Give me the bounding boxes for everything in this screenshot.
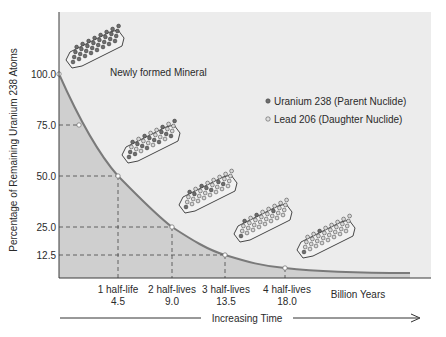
uranium-atom xyxy=(111,27,115,31)
uranium-atom xyxy=(188,190,192,194)
x-tick-4-value: 18.0 xyxy=(277,296,297,307)
lead-atom xyxy=(266,212,270,216)
lead-atom xyxy=(260,215,264,219)
lead-atom xyxy=(227,179,231,183)
lead-atom xyxy=(309,242,313,246)
uranium-atom xyxy=(110,32,114,36)
time-arrow-label: Increasing Time xyxy=(212,313,283,324)
x-tick-3-top: 3 half-lives xyxy=(202,284,250,295)
uranium-atom xyxy=(86,44,90,48)
lead-atom xyxy=(151,143,155,147)
uranium-atom xyxy=(161,125,165,129)
lead-atom xyxy=(278,206,282,210)
uranium-atom xyxy=(148,136,152,140)
lead-atom xyxy=(341,222,345,226)
lead-atom xyxy=(330,223,334,227)
lead-atom xyxy=(306,235,310,239)
x-tick-2-value: 9.0 xyxy=(165,296,179,307)
lead-atom xyxy=(223,177,227,181)
lead-atom xyxy=(332,235,336,239)
y-tick-12-5: 12.5 xyxy=(37,250,57,261)
lead-atom xyxy=(254,218,258,222)
uranium-atom xyxy=(99,33,103,37)
uranium-atom xyxy=(93,36,97,40)
uranium-atom xyxy=(217,180,221,184)
uranium-atom xyxy=(101,45,105,49)
uranium-atom xyxy=(136,142,140,146)
lead-atom xyxy=(190,202,194,206)
uranium-atom xyxy=(140,144,144,148)
lead-atom xyxy=(303,245,307,249)
uranium-atom xyxy=(107,42,111,46)
y-axis-label: Percentage of Remaining Uranium 238 Atom… xyxy=(8,48,19,251)
uranium-atom xyxy=(102,40,106,44)
uranium-atom xyxy=(255,213,259,217)
lead-atom xyxy=(166,127,170,131)
uranium-atom xyxy=(105,30,109,34)
uranium-atom xyxy=(272,209,276,213)
lead-atom xyxy=(230,169,234,173)
uranium-atom xyxy=(239,234,243,238)
lead-atom xyxy=(218,175,222,179)
lead-atom xyxy=(206,181,210,185)
lead-atom xyxy=(275,216,279,220)
uranium-atom xyxy=(75,45,79,49)
uranium-atom xyxy=(78,52,82,56)
x-tick-1-top: 1 half-life xyxy=(98,284,139,295)
lead-atom xyxy=(267,207,271,211)
lead-atom xyxy=(202,196,206,200)
uranium-atom xyxy=(193,192,197,196)
lead-atom xyxy=(167,122,171,126)
lead-atom xyxy=(197,194,201,198)
uranium-atom xyxy=(95,48,99,52)
lead-atom xyxy=(315,239,319,243)
uranium-atom xyxy=(160,130,164,134)
uranium-atom xyxy=(87,39,91,43)
lead-atom xyxy=(215,185,219,189)
uranium-dot-icon xyxy=(266,99,270,103)
uranium-atom xyxy=(83,54,87,58)
uranium-atom xyxy=(104,35,108,39)
lead-dot-icon xyxy=(266,117,270,121)
uranium-atom xyxy=(81,42,85,46)
lead-atom xyxy=(282,208,286,212)
x-unit-label: Billion Years xyxy=(331,289,385,300)
uranium-atom xyxy=(200,184,204,188)
lead-atom xyxy=(154,133,158,137)
lead-atom xyxy=(327,233,331,237)
lead-atom xyxy=(139,149,143,153)
uranium-atom xyxy=(113,39,117,43)
lead-atom xyxy=(199,189,203,193)
legend-lead: Lead 206 (Daughter Nuclide) xyxy=(274,114,402,125)
lead-atom xyxy=(229,174,233,178)
lead-atom xyxy=(146,141,150,145)
lead-atom xyxy=(246,226,250,230)
lead-atom xyxy=(172,124,176,128)
lead-atom xyxy=(263,222,267,226)
lead-atom xyxy=(258,220,262,224)
lead-atom xyxy=(270,214,274,218)
uranium-atom xyxy=(143,134,147,138)
lead-atom xyxy=(329,228,333,232)
uranium-atom xyxy=(145,146,149,150)
lead-atom xyxy=(194,187,198,191)
lead-atom xyxy=(208,193,212,197)
x-tick-1-value: 4.5 xyxy=(111,296,125,307)
legend-uranium: Uranium 238 (Parent Nuclide) xyxy=(274,96,406,107)
uranium-atom xyxy=(184,205,188,209)
uranium-atom xyxy=(173,119,177,123)
lead-atom xyxy=(269,219,273,223)
x-tick-2-top: 2 half-lives xyxy=(148,284,196,295)
lead-atom xyxy=(276,211,280,215)
uranium-atom xyxy=(152,138,156,142)
uranium-atom xyxy=(133,152,137,156)
uranium-atom xyxy=(131,140,135,144)
lead-atom xyxy=(284,203,288,207)
lead-atom xyxy=(324,226,328,230)
lead-atom xyxy=(130,145,134,149)
lead-atom xyxy=(211,183,215,187)
lead-atom xyxy=(158,135,162,139)
uranium-atom xyxy=(127,155,131,159)
lead-atom xyxy=(163,137,167,141)
lead-atom xyxy=(323,231,327,235)
